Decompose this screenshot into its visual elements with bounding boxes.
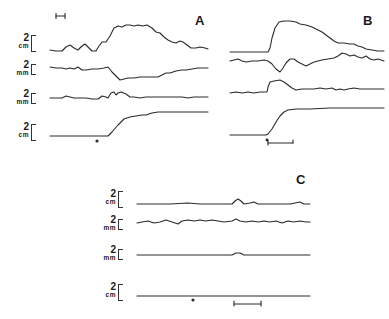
panel-c-scale-1: 2 cm (97, 189, 123, 206)
scale-bracket (118, 284, 123, 301)
scale-bracket (118, 249, 123, 260)
panel-b-trace-1 (230, 21, 384, 52)
panel-a-scale-1: 2 cm (10, 33, 36, 50)
panel-b-interval-marker (268, 140, 293, 145)
panel-a-scale-3: 2 mm (10, 89, 36, 106)
time-scale-bar (56, 14, 65, 19)
panel-c-trace-2 (137, 219, 310, 224)
panel-c-scale-2: 2 mm (97, 215, 123, 232)
panel-b-trace-3 (230, 80, 384, 93)
scale-bracket (118, 191, 123, 208)
panel-c-interval-marker (234, 301, 261, 306)
panel-b-trace-2 (230, 53, 384, 72)
scale-bracket (31, 35, 36, 52)
scale-bracket (31, 64, 36, 75)
panel-c-scale-3: 2 mm (97, 245, 123, 262)
panel-c-trace-1 (137, 199, 310, 204)
panel-c-event-dot (191, 298, 194, 301)
panel-label-a: A (195, 13, 204, 28)
panel-a-event-dot (95, 139, 98, 142)
physiological-recording-figure (0, 0, 389, 319)
panel-a-scale-4: 2 cm (10, 122, 36, 139)
panel-b-event-dot (266, 139, 269, 142)
panel-label-b: B (363, 13, 372, 28)
scale-bracket (31, 93, 36, 104)
panel-label-c: C (296, 172, 305, 187)
panel-a-trace-3 (50, 92, 208, 99)
panel-b-trace-4 (230, 108, 384, 135)
panel-a-trace-2 (50, 67, 208, 80)
scale-bracket (118, 219, 123, 230)
scale-bracket (31, 124, 36, 141)
panel-a-trace-4 (50, 112, 208, 136)
panel-a-scale-2: 2 mm (10, 60, 36, 77)
panel-c-scale-4: 2 cm (97, 282, 123, 299)
panel-a-trace-1 (50, 25, 208, 51)
panel-c-trace-3 (137, 253, 310, 255)
